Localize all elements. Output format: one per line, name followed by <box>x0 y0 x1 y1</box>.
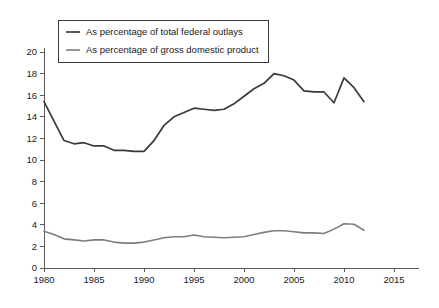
x-tick-label: 2010 <box>333 274 354 285</box>
y-tick-label: 6 <box>32 198 37 209</box>
chart-legend: As percentage of total federal outlaysAs… <box>58 20 268 62</box>
y-tick-label: 4 <box>32 219 37 230</box>
x-tick-label: 1995 <box>183 274 204 285</box>
x-tick-label: 2000 <box>233 274 254 285</box>
line-chart: 02468101214161820 1980198519901995200020… <box>0 0 439 308</box>
x-tick-label: 1985 <box>83 274 104 285</box>
chart-canvas: 02468101214161820 1980198519901995200020… <box>0 0 439 308</box>
series-line-1 <box>44 74 364 152</box>
y-axis: 02468101214161820 <box>26 46 44 273</box>
y-tick-label: 20 <box>26 46 37 57</box>
y-tick-label: 0 <box>32 262 37 273</box>
legend-label-1: As percentage of total federal outlays <box>86 26 243 37</box>
y-tick-label: 8 <box>32 176 37 187</box>
y-tick-label: 18 <box>26 68 37 79</box>
y-tick-label: 2 <box>32 241 37 252</box>
series-line-2 <box>44 224 364 243</box>
legend-label-2: As percentage of gross domestic product <box>86 44 259 55</box>
x-axis: 19801985199019952000200520102015 <box>33 268 419 285</box>
x-tick-label: 2015 <box>383 274 404 285</box>
x-tick-label: 2005 <box>283 274 304 285</box>
data-series-group <box>44 74 364 244</box>
y-tick-label: 10 <box>26 154 37 165</box>
y-tick-label: 14 <box>26 111 37 122</box>
x-tick-label: 1990 <box>133 274 154 285</box>
y-tick-label: 16 <box>26 90 37 101</box>
y-tick-label: 12 <box>26 133 37 144</box>
x-tick-label: 1980 <box>33 274 54 285</box>
